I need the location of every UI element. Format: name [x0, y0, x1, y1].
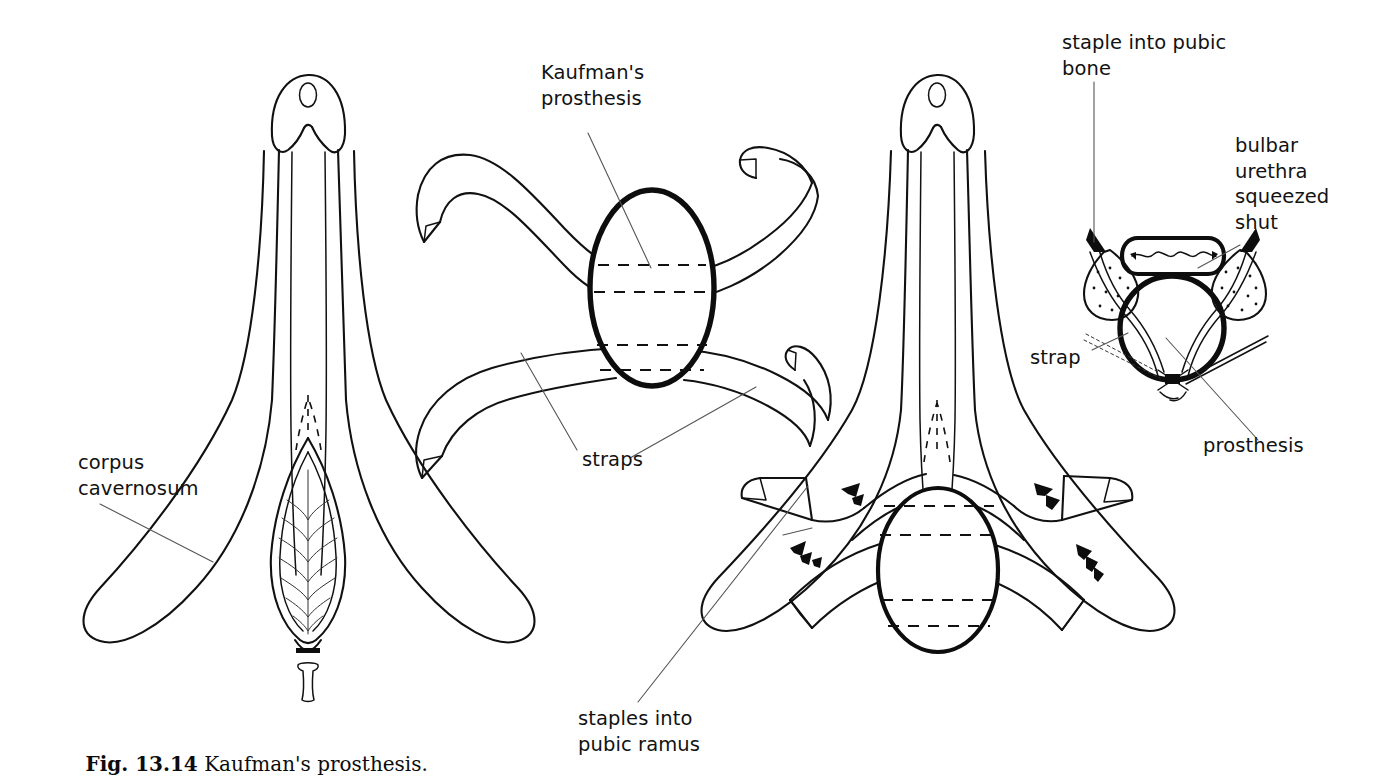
leader-straps-upper — [521, 353, 577, 450]
label-staples-into-pubic-ramus: staples into pubic ramus — [578, 706, 700, 757]
label-strap: strap — [1030, 345, 1081, 371]
panel-cross-section — [1084, 228, 1268, 401]
figure-caption: Fig. 13.14 Kaufman's prosthesis. — [60, 728, 428, 784]
leader-straps-lower — [630, 387, 756, 458]
leader-staples-pubic-ramus-2 — [783, 528, 812, 535]
leader-staples-pubic-ramus — [638, 486, 808, 702]
caption-number: Fig. 13.14 — [85, 752, 197, 776]
label-straps: straps — [582, 447, 643, 473]
caption-text: Kaufman's prosthesis. — [204, 752, 428, 776]
label-corpus-cavernosum: corpus cavernosum — [78, 450, 199, 501]
label-bulbar-urethra-squeezed-shut: bulbar urethra squeezed shut — [1235, 133, 1329, 235]
leader-lines — [100, 82, 1258, 702]
panel-penis-anatomy — [84, 75, 535, 702]
label-prosthesis: prosthesis — [1203, 433, 1304, 459]
label-kaufmans-prosthesis: Kaufman's prosthesis — [541, 60, 644, 111]
figure-line-art — [0, 0, 1384, 784]
leader-corpus-cavernosum — [100, 504, 213, 562]
figure-kaufmans-prosthesis: corpus cavernosum Kaufman's prosthesis s… — [0, 0, 1384, 784]
label-staple-into-pubic-bone: staple into pubic bone — [1062, 30, 1226, 81]
panel-prosthesis-implanted — [702, 75, 1175, 652]
panel-prosthesis-device — [416, 147, 831, 478]
